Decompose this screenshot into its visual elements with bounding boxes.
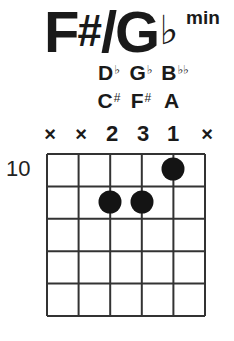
chord-title: F#/G♭min xyxy=(44,2,176,62)
note-name: G♭ xyxy=(129,60,152,86)
finger-number: 1 xyxy=(167,123,179,145)
finger-dot-string3-fret2 xyxy=(99,191,122,214)
chord-separator: / xyxy=(101,0,115,64)
note-name: A xyxy=(164,88,180,114)
fretboard-grid xyxy=(46,153,206,317)
note-name: C# xyxy=(98,88,121,114)
note-name: B♭♭ xyxy=(161,60,189,86)
mute-x-icon: × xyxy=(201,123,213,145)
mute-x-icon: × xyxy=(44,123,56,145)
finger-number: 3 xyxy=(137,123,149,145)
enharmonic-flat-accidental: ♭ xyxy=(159,8,176,52)
chord-quality: min xyxy=(186,0,220,48)
flat-note-names: D♭ G♭ B♭♭ xyxy=(0,60,234,86)
note-name: D♭ xyxy=(98,60,120,86)
chord-root: F xyxy=(44,0,77,64)
mute-x-icon: × xyxy=(75,123,87,145)
chord-enharmonic-root: G xyxy=(115,0,158,64)
sharp-note-names: C# F# A xyxy=(0,88,234,114)
note-name: F# xyxy=(131,88,152,114)
finger-dot-string5-fret1 xyxy=(162,158,185,181)
finger-number: 2 xyxy=(106,123,118,145)
root-sharp-accidental: # xyxy=(77,6,100,55)
finger-dot-string4-fret2 xyxy=(131,191,154,214)
starting-fret-label: 10 xyxy=(6,156,30,182)
